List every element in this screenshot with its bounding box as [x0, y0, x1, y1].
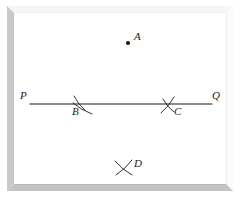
label-point-b: B: [72, 106, 79, 117]
label-point-p: P: [20, 90, 27, 101]
point-a-dot: [126, 41, 130, 45]
arc-mark-d-2: [116, 160, 132, 175]
label-point-c: C: [174, 106, 181, 117]
construction-drawing: [0, 0, 243, 202]
figure-root: P Q A B C D: [0, 0, 243, 202]
label-point-q: Q: [212, 90, 220, 101]
label-point-d: D: [134, 158, 142, 169]
label-point-a: A: [134, 31, 141, 42]
